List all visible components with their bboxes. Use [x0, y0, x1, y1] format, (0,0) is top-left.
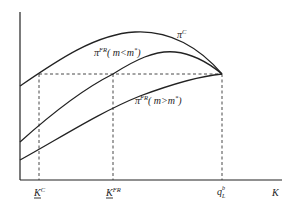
- tick-label-k-c: KC: [33, 186, 46, 198]
- label-pi-fr-high-m: πFR( m>m*): [135, 94, 182, 107]
- tick-label-k-fr: KFR: [105, 186, 121, 198]
- diagram-canvas: πC πFR( m<m*) πFR( m>m*) KC KFR qbL K: [0, 0, 296, 208]
- curve-pi-fr-high-m: [20, 74, 222, 160]
- x-axis-label: K: [271, 187, 280, 198]
- label-pi-c: πC: [177, 28, 187, 40]
- label-pi-fr-low-m: πFR( m<m*): [94, 46, 141, 59]
- curve-pi-c: [20, 32, 222, 86]
- tick-label-q-l-b: qbL: [217, 185, 226, 199]
